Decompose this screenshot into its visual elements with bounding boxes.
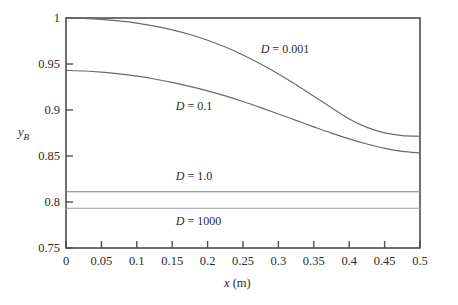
plot-frame [66,18,420,248]
x-tick-label-10: 0.5 [412,254,428,269]
x-tick-label-2: 0.1 [129,254,145,269]
data-curves [66,18,420,208]
y-tick-label-4: 0.8 [14,195,60,210]
x-tick-label-9: 0.45 [374,254,396,269]
plot-frame-rect [66,18,420,248]
x-axis-title: x (m) [224,276,251,291]
y-tick-label-3: 0.85 [14,149,60,164]
curve-label-3: D = 1000 [176,214,221,229]
x-tick-label-8: 0.4 [341,254,357,269]
curve-label-symbol-1: D [176,99,185,113]
curve-label-value-1: = 0.1 [187,99,212,113]
curve-label-value-3: = 1000 [187,214,221,228]
curve-label-1: D = 0.1 [176,99,212,114]
x-axis-title-var: x [224,276,230,290]
x-tick-label-6: 0.3 [271,254,287,269]
x-tick-label-3: 0.15 [161,254,183,269]
y-tick-label-5: 0.75 [14,241,60,256]
x-tick-label-1: 0.05 [90,254,112,269]
x-tick-label-5: 0.25 [232,254,254,269]
y-axis-title-subscript: B [24,132,30,142]
x-tick-label-7: 0.35 [303,254,325,269]
x-tick-label-0: 0 [63,254,69,269]
y-tick-label-2: 0.9 [14,103,60,118]
curve-label-2: D = 1.0 [176,169,212,184]
x-tick-label-4: 0.2 [200,254,216,269]
curve-label-symbol-2: D [176,169,185,183]
curve-label-value-2: = 1.0 [187,169,212,183]
chart-figure: 10.950.90.850.80.75 00.050.10.150.20.250… [0,0,458,305]
curve-1 [66,70,420,153]
curve-0 [66,18,420,136]
x-axis-title-unit: (m) [233,276,251,290]
curve-label-0: D = 0.001 [261,42,309,57]
y-tick-label-1: 0.95 [14,57,60,72]
curve-label-symbol-3: D [176,214,185,228]
axis-ticks [66,18,420,248]
curve-label-value-0: = 0.001 [272,42,309,56]
curve-label-symbol-0: D [261,42,270,56]
y-axis-title: yB [18,125,29,142]
y-tick-label-0: 1 [14,11,60,26]
